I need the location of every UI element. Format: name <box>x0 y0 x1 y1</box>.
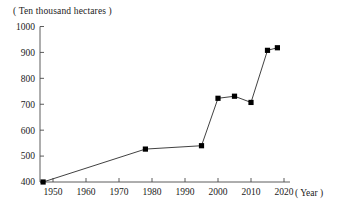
series-markers <box>41 45 281 184</box>
x-tick-label-group: 19501960197019801990200020102020 <box>44 187 294 197</box>
y-tick-label: 900 <box>21 48 36 58</box>
y-tick-label-group: 4005006007008009001000 <box>16 22 35 188</box>
x-axis-caption: ( Year ) <box>295 188 323 198</box>
data-point-marker <box>275 45 280 50</box>
x-tick-label: 1950 <box>44 187 63 197</box>
y-tick-label: 400 <box>21 177 36 187</box>
x-tick-label: 1980 <box>143 187 162 197</box>
x-tick-label: 2000 <box>209 187 228 197</box>
data-point-marker <box>248 100 253 105</box>
data-point-marker <box>199 143 204 148</box>
y-tick-label: 700 <box>21 100 36 110</box>
y-tick-label: 600 <box>21 126 36 136</box>
x-tick-label: 1970 <box>110 187 129 197</box>
data-point-marker <box>143 146 148 151</box>
x-tick-label: 2020 <box>275 187 294 197</box>
x-tick-label: 2010 <box>242 187 261 197</box>
data-point-marker <box>41 179 46 184</box>
x-tick-label: 1960 <box>77 187 96 197</box>
line-chart-plot: 4005006007008009001000 19501960197019801… <box>0 0 343 215</box>
data-point-marker <box>232 94 237 99</box>
y-tick-label: 500 <box>21 151 36 161</box>
data-point-marker <box>265 48 270 53</box>
chart-figure: ( Ten thousand hectares ) 40050060070080… <box>0 0 343 215</box>
x-tick-marks <box>53 178 284 182</box>
y-tick-label: 1000 <box>16 22 35 32</box>
data-point-marker <box>215 96 220 101</box>
series-line <box>43 48 277 182</box>
y-tick-marks <box>40 27 44 183</box>
x-tick-label: 1990 <box>176 187 195 197</box>
y-tick-label: 800 <box>21 74 36 84</box>
